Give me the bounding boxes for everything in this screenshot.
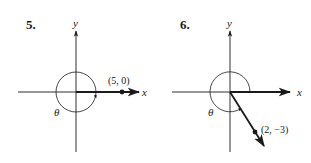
diagram-canvas: 5. y x θ (5, 0) 6. y x θ (2, −3): [0, 0, 311, 163]
figure-number: 6.: [180, 17, 190, 32]
y-axis-label: y: [226, 17, 232, 29]
point-label: (2, −3): [261, 124, 288, 136]
point-marker: [253, 130, 258, 135]
terminal-side-ray: [230, 92, 264, 146]
figure-5: 5. y x θ (5, 0): [18, 17, 147, 152]
angle-label: θ: [54, 106, 60, 118]
x-axis-label: x: [296, 86, 302, 98]
angle-arrow-icon: [96, 96, 97, 98]
y-axis-label: y: [72, 17, 78, 29]
angle-label: θ: [208, 106, 214, 118]
figure-number: 5.: [26, 17, 36, 32]
point-marker: [120, 90, 125, 95]
point-label: (5, 0): [108, 75, 130, 87]
figure-6: 6. y x θ (2, −3): [172, 17, 302, 152]
x-axis-label: x: [141, 86, 147, 98]
